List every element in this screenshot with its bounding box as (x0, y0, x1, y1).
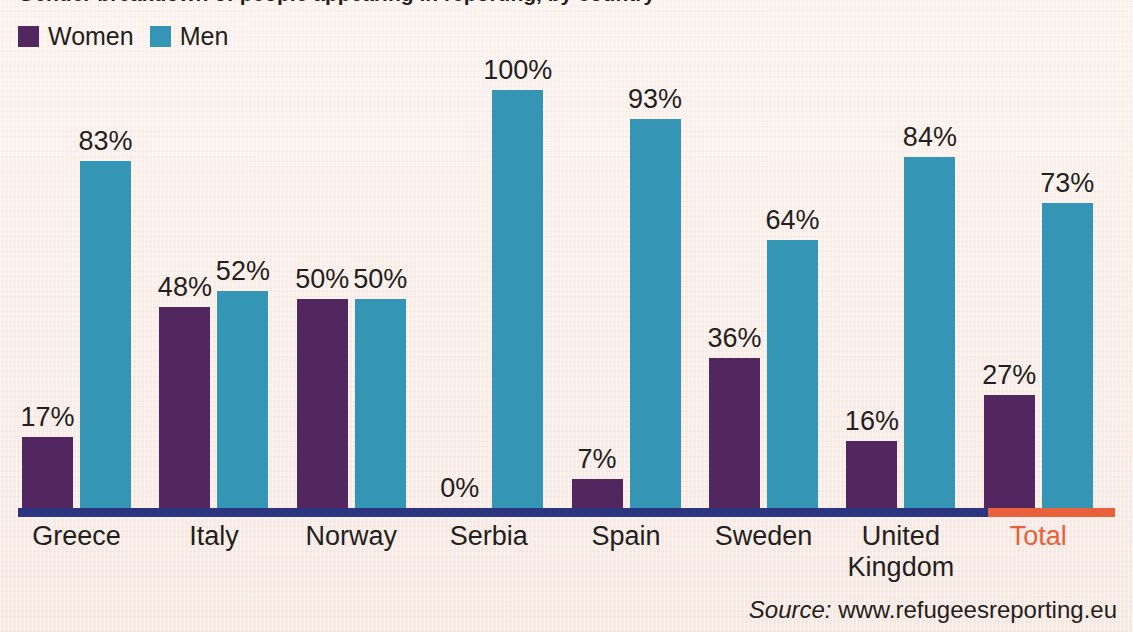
bar-value-label: 73% (1040, 170, 1094, 197)
bar-value-label: 100% (483, 57, 552, 84)
bar-value-label: 7% (578, 446, 617, 473)
bar-value-label: 17% (20, 404, 74, 431)
x-axis-line-total-highlight (988, 508, 1115, 517)
bar-women[interactable] (984, 395, 1035, 508)
bar-women[interactable] (159, 307, 210, 508)
category-label-total: Total (972, 521, 1105, 552)
bar-men[interactable] (80, 161, 131, 508)
bar-group-italy-women[interactable]: 48% (159, 90, 210, 508)
bar-group-norway-men[interactable]: 50% (355, 90, 406, 508)
category-label-spain: Spain (560, 521, 693, 552)
category-label-sweden: Sweden (697, 521, 830, 552)
bar-men[interactable] (767, 240, 818, 508)
bar-women[interactable] (572, 479, 623, 508)
bar-value-label: 83% (78, 128, 132, 155)
category-label-greece: Greece (10, 521, 143, 552)
bar-men[interactable] (492, 90, 543, 508)
x-axis-line (18, 508, 1115, 517)
bar-group-total-women[interactable]: 27% (984, 90, 1035, 508)
bar-value-label: 36% (707, 325, 761, 352)
bar-men[interactable] (217, 291, 268, 508)
bar-group-greece-men[interactable]: 83% (80, 90, 131, 508)
bar-group-italy-men[interactable]: 52% (217, 90, 268, 508)
category-label-line: Greece (10, 521, 143, 552)
bar-group-norway-women[interactable]: 50% (297, 90, 348, 508)
bar-group-greece-women[interactable]: 17% (22, 90, 73, 508)
bar-value-label: 64% (765, 207, 819, 234)
category-label-norway: Norway (285, 521, 418, 552)
category-label-line: Spain (560, 521, 693, 552)
bar-value-label: 16% (845, 408, 899, 435)
bar-group-sweden-men[interactable]: 64% (767, 90, 818, 508)
bar-group-spain-women[interactable]: 7% (572, 90, 623, 508)
bar-value-label: 84% (903, 124, 957, 151)
bar-group-sweden-women[interactable]: 36% (709, 90, 760, 508)
category-axis-labels: GreeceItalyNorwaySerbiaSpainSwedenUnited… (0, 521, 1133, 585)
bar-chart: Gender breakdown of people appearing in … (0, 0, 1133, 632)
category-label-line: Sweden (697, 521, 830, 552)
bar-value-label: 50% (295, 266, 349, 293)
category-label-united-kingdom: UnitedKingdom (834, 521, 967, 583)
bar-men[interactable] (355, 299, 406, 508)
bar-value-label: 48% (158, 274, 212, 301)
category-label-italy: Italy (147, 521, 280, 552)
bar-value-label: 27% (982, 362, 1036, 389)
source-url: www.refugeesreporting.eu (838, 596, 1117, 623)
source-note: Source: www.refugeesreporting.eu (749, 596, 1117, 624)
bar-group-spain-men[interactable]: 93% (630, 90, 681, 508)
bar-men[interactable] (1042, 203, 1093, 508)
bar-group-united-kingdom-women[interactable]: 16% (846, 90, 897, 508)
bar-men[interactable] (904, 157, 955, 508)
category-label-line: United (834, 521, 967, 552)
category-label-serbia: Serbia (422, 521, 555, 552)
category-label-line: Kingdom (834, 552, 967, 583)
bar-value-label: 93% (628, 86, 682, 113)
bar-value-label: 0% (440, 475, 479, 502)
bar-value-label: 50% (353, 266, 407, 293)
bar-group-serbia-women[interactable]: 0% (434, 90, 485, 508)
bar-group-united-kingdom-men[interactable]: 84% (904, 90, 955, 508)
bar-women[interactable] (846, 441, 897, 508)
category-label-line: Italy (147, 521, 280, 552)
bar-men[interactable] (630, 119, 681, 508)
bar-women[interactable] (709, 358, 760, 508)
category-label-line: Serbia (422, 521, 555, 552)
plot-area: 17%83%48%52%50%50%0%100%7%93%36%64%16%84… (0, 0, 1133, 514)
category-label-line: Total (972, 521, 1105, 552)
source-prefix: Source: (749, 596, 832, 623)
bar-women[interactable] (297, 299, 348, 508)
bar-group-serbia-men[interactable]: 100% (492, 90, 543, 508)
bar-women[interactable] (22, 437, 73, 508)
category-label-line: Norway (285, 521, 418, 552)
bar-group-total-men[interactable]: 73% (1042, 90, 1093, 508)
bar-value-label: 52% (216, 258, 270, 285)
